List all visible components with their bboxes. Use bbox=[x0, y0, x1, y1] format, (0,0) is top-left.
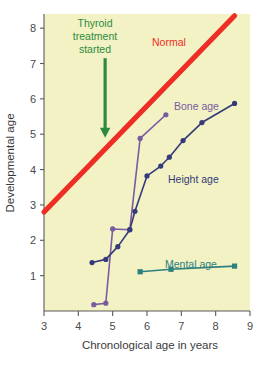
x-tick-label-5: 5 bbox=[110, 320, 116, 332]
data-point bbox=[138, 269, 143, 274]
y-axis-title: Developmental age bbox=[4, 113, 16, 212]
data-point bbox=[103, 257, 108, 262]
y-tick-label-7: 7 bbox=[30, 58, 36, 70]
y-tick-label-5: 5 bbox=[30, 128, 36, 140]
series-label-mental-age: Mental age bbox=[165, 258, 217, 270]
data-point bbox=[91, 302, 96, 307]
y-tick-label-1: 1 bbox=[30, 270, 36, 282]
data-point bbox=[158, 163, 163, 168]
y-axis-ticks: 12345678 bbox=[30, 22, 44, 282]
series-label-bone-age: Bone age bbox=[174, 100, 219, 112]
y-tick-label-4: 4 bbox=[30, 164, 36, 176]
data-point bbox=[132, 209, 137, 214]
x-tick-label-9: 9 bbox=[247, 320, 253, 332]
data-point bbox=[144, 173, 149, 178]
data-point bbox=[138, 136, 143, 141]
data-point bbox=[89, 260, 94, 265]
x-tick-label-3: 3 bbox=[41, 320, 47, 332]
data-point bbox=[163, 112, 168, 117]
data-point bbox=[232, 101, 237, 106]
data-point bbox=[110, 226, 115, 231]
x-tick-label-6: 6 bbox=[144, 320, 150, 332]
y-tick-label-8: 8 bbox=[30, 22, 36, 34]
y-tick-label-3: 3 bbox=[30, 199, 36, 211]
data-point bbox=[199, 120, 204, 125]
y-tick-label-6: 6 bbox=[30, 93, 36, 105]
data-point bbox=[180, 138, 185, 143]
thyroid-annotation-line-3: started bbox=[79, 43, 111, 55]
data-point bbox=[115, 244, 120, 249]
thyroid-annotation-line-1: Thyroid bbox=[77, 17, 112, 29]
chart-svg: 12345678 3456789 Normal Bone age Height … bbox=[0, 0, 270, 374]
y-tick-label-2: 2 bbox=[30, 234, 36, 246]
data-point bbox=[127, 227, 132, 232]
series-label-normal: Normal bbox=[152, 36, 186, 48]
x-tick-label-4: 4 bbox=[75, 320, 81, 332]
x-tick-label-8: 8 bbox=[213, 320, 219, 332]
data-point bbox=[232, 264, 237, 269]
series-label-height-age: Height age bbox=[168, 173, 219, 185]
data-point bbox=[103, 301, 108, 306]
x-tick-label-7: 7 bbox=[178, 320, 184, 332]
thyroid-annotation-line-2: treatment bbox=[73, 30, 117, 42]
x-axis-title: Chronological age in years bbox=[82, 339, 218, 351]
data-point bbox=[167, 155, 172, 160]
chart-figure: 12345678 3456789 Normal Bone age Height … bbox=[0, 0, 270, 374]
x-axis-ticks: 3456789 bbox=[41, 311, 253, 332]
